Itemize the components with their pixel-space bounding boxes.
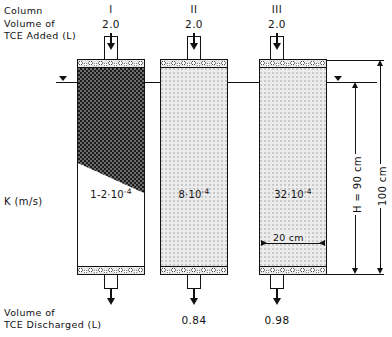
water-table-marker-right-icon <box>334 76 342 81</box>
volume-discharged-value-2: 0.84 <box>171 314 217 326</box>
height-h-arrow-top-icon <box>352 82 358 88</box>
k-value-2-mult: ·10 <box>185 189 202 200</box>
gravel-cap-top-3 <box>260 60 326 68</box>
gravel-cap-bottom-2 <box>161 266 227 274</box>
inlet-arrow-1-icon <box>107 43 115 50</box>
k-value-1-base: 1-2 <box>90 189 107 200</box>
k-value-1-exp: -4 <box>124 187 132 196</box>
height-h-label: H = 90 cm <box>352 154 363 215</box>
k-value-1-mult: ·10 <box>107 189 124 200</box>
column-heading-2: II <box>171 4 217 15</box>
height-h-arrow-bottom-icon <box>352 268 358 274</box>
k-value-3-exp: -4 <box>304 187 312 196</box>
height-total-arrow-bottom-icon <box>377 268 383 274</box>
volume-added-value-1: 2.0 <box>88 18 134 30</box>
gravel-cap-top-1 <box>78 60 144 68</box>
outlet-pipe-2 <box>187 275 201 289</box>
k-value-3-mult: ·10 <box>287 189 304 200</box>
k-value-3: 32·10-4 <box>260 187 326 200</box>
extension-line-top <box>327 60 384 61</box>
k-value-2-exp: -4 <box>202 187 210 196</box>
volume-discharged-value-3: 0.98 <box>254 314 300 326</box>
outlet-arrow-2-icon <box>190 298 198 305</box>
width-dimension-line <box>262 243 324 244</box>
water-table-marker-left-icon <box>59 76 67 81</box>
width-dimension-arrow-right-icon <box>319 240 325 246</box>
outlet-pipe-3 <box>270 275 284 289</box>
height-total-arrow-top-icon <box>377 60 383 66</box>
tce-saturated-zone-1 <box>78 68 144 193</box>
outlet-pipe-1 <box>104 275 118 289</box>
height-total-label: 100 cm <box>377 164 388 208</box>
k-axis-label: K (m/s) <box>4 196 43 208</box>
k-value-1: 1-2·10-4 <box>78 187 144 200</box>
inlet-arrow-2-icon <box>190 43 198 50</box>
k-value-3-base: 32 <box>274 189 287 200</box>
gravel-cap-top-2 <box>161 60 227 68</box>
column-heading-1: I <box>88 4 134 15</box>
volume-discharged-label: Volume of TCE Discharged (L) <box>4 307 101 331</box>
gravel-cap-bottom-3 <box>260 266 326 274</box>
inlet-arrow-3-icon <box>273 43 281 50</box>
gravel-cap-bottom-1 <box>78 266 144 274</box>
volume-added-value-3: 2.0 <box>254 18 300 30</box>
outlet-arrow-1-icon <box>107 298 115 305</box>
soil-column-2: 8·10-4 <box>160 59 228 275</box>
column-heading-3: III <box>254 4 300 15</box>
volume-added-value-2: 2.0 <box>171 18 217 30</box>
volume-added-label: Volume of TCE Added (L) <box>4 18 76 42</box>
outlet-arrow-3-icon <box>273 298 281 305</box>
k-value-2: 8·10-4 <box>161 187 227 200</box>
extension-line-bottom <box>327 274 384 275</box>
width-dimension-arrow-left-icon <box>261 240 267 246</box>
sand-fill-2 <box>161 68 227 266</box>
column-row-label: Column <box>4 5 43 17</box>
soil-column-1: 1-2·10-4 <box>77 59 145 275</box>
width-dimension-label: 20 cm <box>272 232 305 243</box>
